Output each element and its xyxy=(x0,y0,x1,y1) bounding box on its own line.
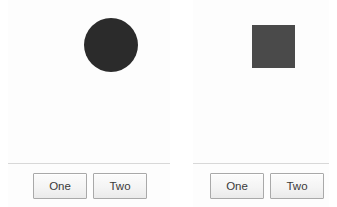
square-panel-one-button[interactable]: One xyxy=(210,173,264,199)
circle-panel-one-button[interactable]: One xyxy=(33,173,87,199)
circle-shape xyxy=(84,18,138,72)
circle-panel-two-button[interactable]: Two xyxy=(93,173,147,199)
square-panel-two-button[interactable]: Two xyxy=(270,173,324,199)
circle-panel-canvas xyxy=(8,0,170,163)
circle-panel: One Two xyxy=(8,0,170,207)
circle-panel-button-bar: One Two xyxy=(8,163,170,207)
panel-divider-gap xyxy=(170,0,193,207)
square-panel-button-bar: One Two xyxy=(193,163,329,207)
two-panel-layout: One Two One Two xyxy=(0,0,337,207)
square-panel-canvas xyxy=(193,0,329,163)
square-shape xyxy=(252,25,295,68)
square-panel: One Two xyxy=(193,0,329,207)
